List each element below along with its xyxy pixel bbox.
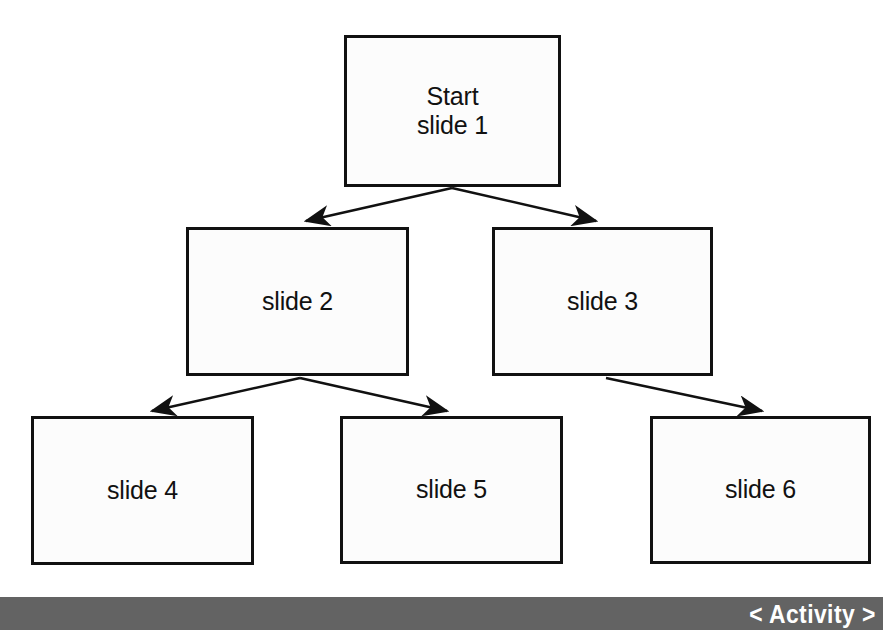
edge-node1-node2 bbox=[306, 188, 452, 221]
edge-node1-node3 bbox=[452, 188, 596, 221]
flowchart-node-slide-6[interactable]: slide 6 bbox=[650, 416, 871, 564]
footer-banner: < Activity > bbox=[0, 597, 883, 630]
slide-page: Start slide 1 slide 2 slide 3 slide 4 sl… bbox=[0, 0, 883, 630]
flowchart-node-slide-2[interactable]: slide 2 bbox=[186, 227, 409, 376]
node-label: Start slide 1 bbox=[417, 82, 488, 141]
flowchart-node-slide-4[interactable]: slide 4 bbox=[31, 416, 254, 565]
edge-node3-node6 bbox=[606, 378, 762, 411]
flowchart-node-slide-5[interactable]: slide 5 bbox=[340, 416, 563, 564]
activity-label: < Activity > bbox=[749, 601, 883, 627]
flowchart-diagram: Start slide 1 slide 2 slide 3 slide 4 sl… bbox=[0, 0, 883, 598]
node-label: slide 2 bbox=[262, 287, 333, 317]
flowchart-node-slide-1[interactable]: Start slide 1 bbox=[344, 35, 561, 187]
flowchart-node-slide-3[interactable]: slide 3 bbox=[492, 227, 713, 376]
edge-node2-node4 bbox=[152, 378, 300, 411]
node-label: slide 4 bbox=[107, 476, 178, 506]
node-label: slide 3 bbox=[567, 287, 638, 317]
edge-node2-node5 bbox=[300, 378, 447, 411]
node-label: slide 6 bbox=[725, 475, 796, 505]
node-label: slide 5 bbox=[416, 475, 487, 505]
